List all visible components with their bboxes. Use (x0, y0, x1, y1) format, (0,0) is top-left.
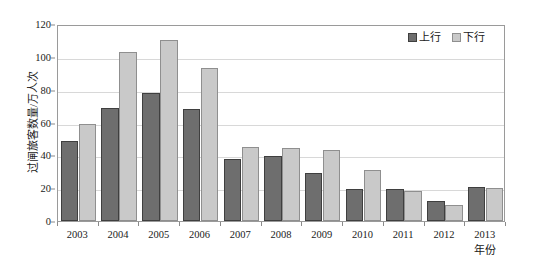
bar-上行-2012[interactable] (427, 201, 445, 221)
legend-label-down: 下行 (463, 31, 485, 43)
legend-swatch-up-icon (408, 33, 417, 42)
y-tick-label: 80 (41, 86, 52, 96)
x-tick-mark (138, 222, 139, 226)
y-tick-label: 20 (41, 184, 52, 194)
legend-swatch-down-icon (452, 33, 461, 42)
x-tick-label: 2011 (393, 228, 414, 242)
bar-group (262, 26, 303, 221)
bar-group (425, 26, 466, 221)
legend-item-up[interactable]: 上行 (408, 31, 441, 43)
bar-上行-2006[interactable] (183, 109, 201, 221)
x-tick-mark (505, 222, 506, 226)
bar-上行-2013[interactable] (468, 187, 486, 221)
bar-group (99, 26, 140, 221)
bar-上行-2010[interactable] (346, 189, 364, 221)
bar-group (465, 26, 506, 221)
y-tick-mark (51, 57, 55, 58)
x-tick-label: 2004 (108, 228, 129, 242)
bar-下行-2006[interactable] (201, 68, 219, 221)
y-tick-mark (51, 123, 55, 124)
bar-group (221, 26, 262, 221)
y-tick-label: 60 (41, 119, 52, 129)
legend: 上行 下行 (408, 31, 485, 43)
y-tick-mark (51, 90, 55, 91)
bar-下行-2011[interactable] (404, 191, 422, 221)
x-tick-mark (98, 222, 99, 226)
bar-group (384, 26, 425, 221)
x-tick-mark (179, 222, 180, 226)
x-axis-title: 年份 (474, 243, 496, 257)
x-tick-label: 2010 (352, 228, 373, 242)
bar-group (58, 26, 99, 221)
bar-group (139, 26, 180, 221)
bar-上行-2004[interactable] (101, 108, 119, 221)
y-tick-mark (51, 156, 55, 157)
x-tick-mark (424, 222, 425, 226)
x-axis-labels: 2003200420052006200720082009201020112012… (57, 228, 505, 244)
bar-上行-2009[interactable] (305, 173, 323, 221)
bar-group (343, 26, 384, 221)
x-tick-label: 2013 (474, 228, 495, 242)
x-tick-mark (301, 222, 302, 226)
bar-下行-2003[interactable] (79, 124, 97, 221)
x-tick-label: 2008 (271, 228, 292, 242)
y-tick-label: 40 (41, 151, 52, 161)
x-tick-label: 2005 (148, 228, 169, 242)
bar-group (180, 26, 221, 221)
y-tick-mark (51, 25, 55, 26)
bar-上行-2011[interactable] (386, 189, 404, 221)
y-tick-mark (51, 222, 55, 223)
x-tick-label: 2012 (433, 228, 454, 242)
bar-下行-2009[interactable] (323, 150, 341, 221)
bar-下行-2007[interactable] (242, 147, 260, 221)
bar-下行-2010[interactable] (364, 170, 382, 221)
x-tick-mark (464, 222, 465, 226)
bars-layer (58, 26, 504, 221)
x-tick-mark (261, 222, 262, 226)
bar-上行-2007[interactable] (224, 159, 242, 221)
legend-item-down[interactable]: 下行 (452, 31, 485, 43)
x-tick-mark (383, 222, 384, 226)
bar-上行-2005[interactable] (142, 93, 160, 221)
bar-下行-2008[interactable] (282, 148, 300, 221)
y-tick-label: 120 (35, 20, 51, 30)
bar-group (302, 26, 343, 221)
bar-下行-2013[interactable] (486, 188, 504, 221)
x-tick-label: 2007 (230, 228, 251, 242)
x-tick-mark (57, 222, 58, 226)
y-tick-mark (51, 189, 55, 190)
x-tick-label: 2009 (311, 228, 332, 242)
bar-下行-2012[interactable] (445, 205, 463, 221)
bar-下行-2004[interactable] (119, 52, 137, 221)
bar-上行-2003[interactable] (61, 141, 79, 221)
bar-chart: 过闸旅客数量/万人次 020406080100120 2003200420052… (0, 0, 536, 272)
x-tick-mark (220, 222, 221, 226)
x-tick-label: 2003 (67, 228, 88, 242)
x-tick-label: 2006 (189, 228, 210, 242)
y-tick-label: 100 (35, 53, 51, 63)
plot-area (57, 25, 505, 222)
legend-label-up: 上行 (419, 31, 441, 43)
bar-上行-2008[interactable] (264, 156, 282, 221)
x-tick-mark (342, 222, 343, 226)
bar-下行-2005[interactable] (160, 40, 178, 221)
y-axis-ticks: 020406080100120 (30, 25, 55, 222)
